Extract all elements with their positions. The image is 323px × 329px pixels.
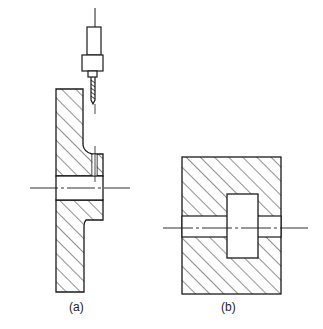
flange-section-a [30,89,130,292]
label-b: (b) [221,300,236,314]
technical-drawing: (a) (b) [0,0,323,329]
block-section-b [163,157,308,294]
drawing-canvas [0,0,323,329]
label-a: (a) [69,300,84,314]
drill-tool [82,8,103,114]
